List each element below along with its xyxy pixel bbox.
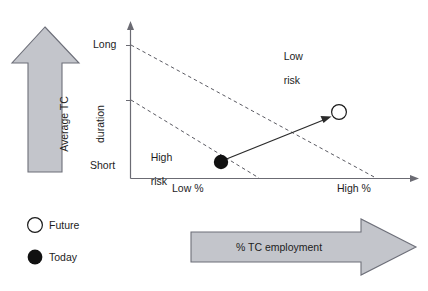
legend-marker-future <box>28 218 43 233</box>
region-label-high-risk: High risk <box>139 139 172 199</box>
diagram-canvas: Long Short Low % High % Low risk High ri… <box>0 0 428 291</box>
y-axis-top-tick-label: Long <box>93 38 116 50</box>
point-today <box>214 155 228 169</box>
horizontal-arrow-caption: % TC employment <box>204 241 354 253</box>
y-axis-arrowhead <box>127 21 134 30</box>
vertical-arrow-caption: Average TC duration <box>34 64 130 184</box>
legend-marker-today <box>28 250 43 265</box>
region-label-low-risk: Low risk <box>272 38 303 98</box>
legend-label-future: Future <box>49 219 79 231</box>
region-label-low-risk-line2: risk <box>284 74 300 86</box>
vertical-arrow-caption-line1: Average TC <box>58 64 70 184</box>
region-label-high-risk-line1: High <box>151 151 173 163</box>
vertical-arrow-caption-line2: duration <box>94 64 106 184</box>
movement-arrow-head <box>321 116 332 123</box>
movement-arrow-shaft <box>224 119 326 160</box>
region-label-high-risk-line2: risk <box>151 175 167 187</box>
region-label-low-risk-line1: Low <box>284 50 303 62</box>
point-future <box>332 105 347 120</box>
legend-label-today: Today <box>49 251 77 263</box>
x-axis-left-tick-label: Low % <box>172 182 204 194</box>
x-axis-right-tick-label: High % <box>337 182 371 194</box>
x-axis-arrowhead <box>410 175 419 182</box>
